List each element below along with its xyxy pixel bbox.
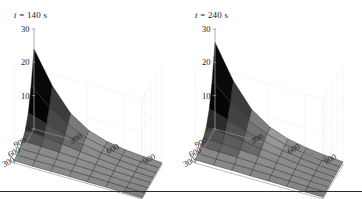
panel-left: 0102030900600300300600900 t = 140 s — [0, 0, 181, 199]
surface-plot-left: 0102030900600300300600900 — [0, 0, 181, 199]
title-text: = 240 s — [198, 10, 228, 20]
z-tick-label: 0 — [25, 124, 29, 134]
z-tick-label: 10 — [21, 91, 30, 101]
panel-right: 0102030900600300300600900 t = 240 s — [181, 0, 362, 199]
surface-mesh — [195, 42, 343, 197]
figure-container: 0102030900600300300600900 t = 140 s 0102… — [0, 0, 362, 199]
z-tick-label: 10 — [202, 91, 211, 101]
z-tick-label: 20 — [202, 57, 211, 67]
title-text: = 140 s — [17, 10, 47, 20]
bottom-separator-rule — [0, 191, 362, 192]
z-tick-label: 0 — [206, 124, 210, 134]
surface-plot-right: 0102030900600300300600900 — [181, 0, 362, 199]
z-tick-label: 30 — [21, 24, 30, 34]
surface-mesh — [14, 49, 162, 198]
z-tick-label: 20 — [21, 57, 30, 67]
panel-title-right: t = 240 s — [195, 10, 228, 20]
panel-title-left: t = 140 s — [14, 10, 47, 20]
z-tick-label: 30 — [202, 24, 211, 34]
